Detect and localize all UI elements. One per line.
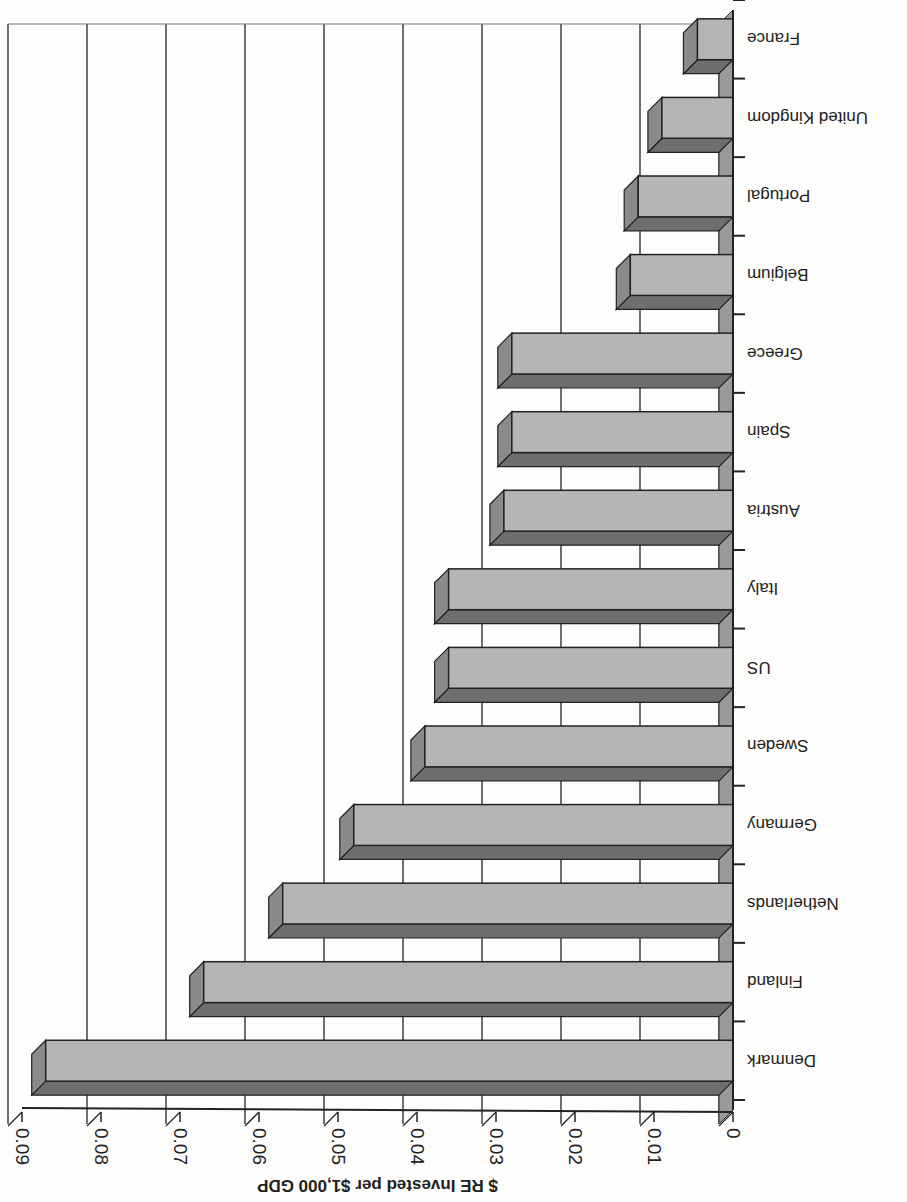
bar-greece [498, 333, 733, 388]
bar-portugal [624, 176, 733, 231]
category-label: Greece [747, 344, 803, 363]
category-label: Germany [747, 815, 817, 834]
bar-netherlands [269, 883, 733, 938]
tick-label: 0.02 [565, 1128, 586, 1165]
bar-denmark [32, 1040, 733, 1095]
bar-finland [190, 962, 733, 1017]
bar-united-kingdom [648, 97, 733, 152]
tick-label: 0.01 [644, 1128, 665, 1165]
tick-label: 0.07 [170, 1128, 191, 1165]
category-label: United Kingdom [747, 108, 868, 127]
category-axis: DenmarkFinlandNetherlandsGermanySwedenUS… [733, 0, 868, 1110]
category-label: Spain [747, 422, 790, 441]
category-label: US [747, 658, 771, 677]
bar-belgium [616, 255, 733, 310]
tick-label: 0 [723, 1128, 744, 1139]
bar-spain [498, 412, 733, 467]
bar-austria [490, 490, 733, 545]
axis-title: $ RE Invested per $1,000 GDP [257, 1176, 498, 1195]
tick-label: 0.09 [12, 1128, 33, 1165]
category-label: Finland [747, 972, 803, 991]
category-label: Italy [747, 579, 779, 598]
bar-germany [340, 805, 733, 860]
category-label: Belgium [747, 265, 808, 284]
bar-us [435, 647, 733, 702]
chart-stage: 00.010.020.030.040.050.060.070.080.09 De… [0, 0, 907, 1202]
tick-label: 0.05 [328, 1128, 349, 1165]
tick-label: 0.08 [91, 1128, 112, 1165]
bar-italy [435, 569, 733, 624]
bar-france [683, 19, 733, 74]
value-axis: 00.010.020.030.040.050.060.070.080.09 [8, 1108, 744, 1165]
category-label: Portugal [747, 186, 810, 205]
bars [32, 19, 733, 1095]
tick-label: 0.03 [486, 1128, 507, 1165]
category-label: Sweden [747, 736, 808, 755]
tick-label: 0.06 [249, 1128, 270, 1165]
tick-label: 0.04 [407, 1128, 428, 1165]
category-label: France [747, 29, 800, 48]
category-label: Denmark [747, 1051, 816, 1070]
bar-chart: 00.010.020.030.040.050.060.070.080.09 De… [0, 0, 907, 1202]
bar-sweden [411, 726, 733, 781]
category-label: Austria [746, 501, 799, 520]
category-label: Netherlands [747, 894, 839, 913]
